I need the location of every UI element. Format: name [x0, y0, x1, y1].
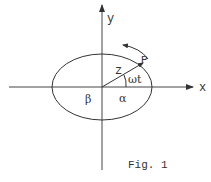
- y-axis-label: y: [107, 12, 114, 26]
- vector-z-label: z: [115, 64, 122, 78]
- angle-label: ωt: [128, 73, 142, 86]
- ellipse-diagram: y x P z ωt α β Fig. 1: [0, 0, 211, 182]
- figure-caption: Fig. 1: [128, 159, 168, 171]
- angle-arc: [124, 75, 126, 87]
- alpha-label: α: [119, 92, 127, 105]
- beta-label: β: [85, 93, 91, 106]
- x-axis-label: x: [199, 81, 206, 95]
- point-p-label: P: [141, 54, 148, 66]
